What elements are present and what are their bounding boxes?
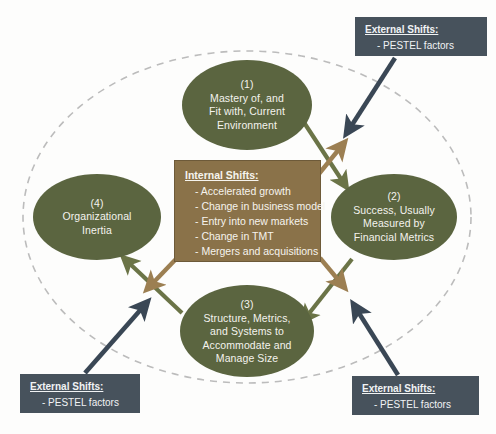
node-ellipse-4[interactable] <box>33 174 161 260</box>
internal-shifts-title: Internal Shifts: <box>185 168 311 183</box>
external-shifts-box-top-right[interactable]: External Shifts: - PESTEL factors <box>355 17 487 56</box>
internal-shifts-item-4: - Change in TMT <box>195 229 311 244</box>
arrow-internal-shifts-lower-left <box>152 259 176 284</box>
node-ellipse-3[interactable] <box>180 285 314 377</box>
arrow-external-top-right <box>350 58 395 128</box>
external-shifts-list-top-right: - PESTEL factors <box>377 39 477 54</box>
arrow-external-bottom-left <box>85 307 143 373</box>
internal-shifts-item-2: - Change in business model <box>195 199 311 214</box>
external-shifts-box-bottom-right[interactable]: External Shifts: - PESTEL factors <box>352 376 479 415</box>
diagram-canvas: (1) Mastery of, and Fit with, Current En… <box>0 0 496 434</box>
arrow-external-bottom-right <box>357 310 398 375</box>
external-shifts-list-bottom-right: - PESTEL factors <box>374 398 469 413</box>
external-shifts-item-bottom-left: - PESTEL factors <box>42 396 130 411</box>
external-shifts-box-bottom-left[interactable]: External Shifts: - PESTEL factors <box>20 374 140 413</box>
internal-shifts-box[interactable]: Internal Shifts: - Accelerated growth - … <box>174 160 321 262</box>
external-shifts-title-top-right: External Shifts: <box>365 23 477 38</box>
internal-shifts-item-1: - Accelerated growth <box>195 184 311 199</box>
arrow-internal-shifts-lower-right <box>320 258 340 282</box>
external-shifts-title-bottom-left: External Shifts: <box>30 380 130 395</box>
external-shifts-title-bottom-right: External Shifts: <box>362 382 469 397</box>
internal-shifts-item-5: - Mergers and acquisitions <box>195 244 311 259</box>
internal-shifts-list: - Accelerated growth - Change in busines… <box>195 184 311 259</box>
arrow-node3-to-node4 <box>128 262 182 313</box>
node-ellipse-2[interactable] <box>331 174 457 260</box>
external-shifts-list-bottom-left: - PESTEL factors <box>42 396 130 411</box>
external-shifts-item-top-right: - PESTEL factors <box>377 39 477 54</box>
internal-shifts-item-3: - Entry into new markets <box>195 214 311 229</box>
external-shifts-item-bottom-right: - PESTEL factors <box>374 398 469 413</box>
node-ellipse-1[interactable] <box>182 60 312 150</box>
